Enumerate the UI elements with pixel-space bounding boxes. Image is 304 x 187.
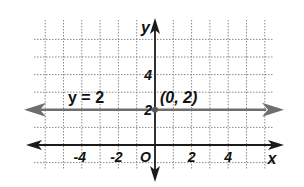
- coordinate-plane: -4-22424Oxyy = 2(0, 2): [0, 0, 304, 187]
- x-tick-label: -4: [74, 149, 87, 165]
- x-tick-label: 2: [187, 149, 196, 165]
- x-axis-label: x: [267, 150, 278, 167]
- y-tick-label: 4: [143, 67, 152, 83]
- y-tick-label: 2: [143, 102, 152, 118]
- point-0-2: [152, 107, 158, 113]
- x-tick-label: 4: [223, 149, 232, 165]
- axes: [26, 18, 284, 182]
- x-tick-label: -2: [110, 149, 123, 165]
- equation-label: y = 2: [68, 89, 104, 106]
- y-axis-label: y: [140, 19, 151, 36]
- point-label: (0, 2): [160, 89, 197, 106]
- origin-label: O: [140, 149, 151, 165]
